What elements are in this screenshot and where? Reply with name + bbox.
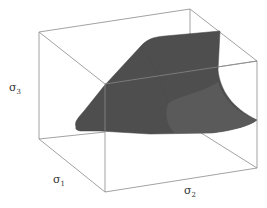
axis-symbol: σ bbox=[53, 173, 61, 186]
axis-subscript: 3 bbox=[17, 88, 21, 96]
axis-symbol: σ bbox=[184, 184, 192, 197]
axis-label-sigma2: σ2 bbox=[184, 185, 196, 199]
axis-label-sigma3: σ3 bbox=[9, 82, 21, 96]
axis-subscript: 1 bbox=[61, 180, 65, 188]
axis-subscript: 2 bbox=[192, 191, 196, 199]
axis-symbol: σ bbox=[9, 81, 17, 94]
axis-label-sigma1: σ1 bbox=[53, 174, 65, 188]
surface-plot bbox=[0, 0, 267, 208]
